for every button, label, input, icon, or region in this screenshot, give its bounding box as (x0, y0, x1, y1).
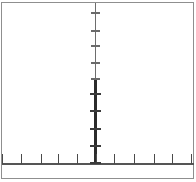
y-axis-tick (90, 110, 101, 112)
x-axis-tick (2, 154, 3, 164)
x-axis-tick (41, 154, 42, 164)
plot-area (2, 3, 193, 173)
y-axis-tick (91, 30, 100, 32)
x-axis-tick (172, 154, 173, 164)
y-axis-tick (91, 45, 100, 47)
x-axis-tick (134, 154, 135, 164)
y-axis-tick (90, 145, 101, 147)
x-axis-tick (58, 154, 59, 164)
x-axis-tick (154, 154, 155, 164)
y-axis-spine-upper (95, 3, 96, 81)
x-axis-tick (77, 154, 78, 164)
chart-figure (0, 0, 196, 182)
x-axis-tick (21, 154, 22, 164)
y-axis-tick (91, 12, 100, 14)
y-axis-tick (90, 93, 101, 95)
x-axis-tick (114, 154, 115, 164)
y-axis-tick (90, 128, 101, 130)
y-axis-tick (91, 78, 100, 80)
y-axis-tick (90, 162, 101, 164)
y-axis-tick (91, 62, 100, 64)
x-axis-tick (191, 154, 192, 164)
axis-bottom-strip (2, 165, 193, 178)
